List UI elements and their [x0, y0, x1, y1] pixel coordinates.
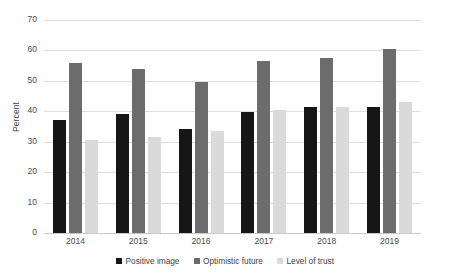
y-tick-label: 50: [28, 75, 37, 85]
y-tick-label: 60: [28, 44, 37, 54]
bar: [211, 131, 224, 233]
legend-item[interactable]: Optimistic future: [194, 256, 263, 266]
plot-area: 010203040506070: [44, 20, 421, 233]
bar: [257, 61, 270, 233]
x-tick-label: 2015: [107, 236, 170, 252]
bar: [53, 120, 66, 233]
bar-group: [358, 20, 421, 233]
x-tick-label: 2017: [232, 236, 295, 252]
x-tick-label: 2014: [44, 236, 107, 252]
y-axis-title: Percent: [4, 0, 28, 233]
bar: [132, 69, 145, 233]
bar-group: [232, 20, 295, 233]
bar: [85, 140, 98, 233]
legend-item[interactable]: Level of trust: [277, 256, 334, 266]
legend-swatch-icon: [116, 258, 122, 264]
bar-chart: Percent 010203040506070 2014201520162017…: [0, 0, 450, 278]
y-tick-label: 30: [28, 136, 37, 146]
x-axis: 201420152016201720182019: [44, 236, 421, 252]
bar: [148, 137, 161, 233]
legend-swatch-icon: [194, 258, 200, 264]
bar-group: [107, 20, 170, 233]
bar: [367, 107, 380, 233]
x-tick-label: 2018: [295, 236, 358, 252]
y-tick-label: 70: [28, 14, 37, 24]
y-tick-label: 10: [28, 197, 37, 207]
bar: [304, 107, 317, 233]
bar: [399, 102, 412, 233]
bar: [179, 129, 192, 233]
bar: [383, 49, 396, 233]
bar: [273, 110, 286, 233]
bar: [241, 112, 254, 233]
bar: [69, 63, 82, 233]
legend-label: Positive image: [126, 256, 180, 266]
bar: [320, 58, 333, 233]
chart-legend: Positive imageOptimistic futureLevel of …: [0, 256, 450, 266]
bar: [336, 107, 349, 233]
legend-item[interactable]: Positive image: [116, 256, 179, 266]
axis-baseline: [44, 233, 421, 234]
bar-group: [44, 20, 107, 233]
y-tick-label: 40: [28, 105, 37, 115]
y-tick-label: 0: [32, 227, 37, 237]
bar: [116, 114, 129, 233]
x-tick-label: 2019: [358, 236, 421, 252]
legend-label: Level of trust: [286, 256, 334, 266]
x-tick-label: 2016: [170, 236, 233, 252]
legend-label: Optimistic future: [203, 256, 263, 266]
bar: [195, 82, 208, 233]
legend-swatch-icon: [277, 258, 283, 264]
bar-groups: [44, 20, 421, 233]
bar-group: [295, 20, 358, 233]
bar-group: [170, 20, 233, 233]
y-axis-title-label: Percent: [11, 102, 21, 132]
y-tick-label: 20: [28, 166, 37, 176]
